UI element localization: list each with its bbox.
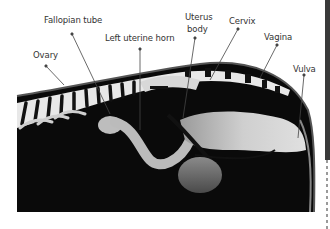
label-ovary: Ovary [33, 50, 58, 60]
label-uterus-body-line1: Uterus [185, 12, 213, 22]
page-edge-bar [325, 0, 330, 160]
label-uterus-body-line2: body [187, 24, 208, 34]
label-left-uterine-horn: Left uterine horn [105, 33, 174, 43]
page-edge-dashes [326, 160, 328, 229]
label-vagina: Vagina [264, 32, 292, 42]
label-cervix: Cervix [229, 16, 255, 26]
label-vulva: Vulva [293, 64, 316, 74]
label-fallopian-tube: Fallopian tube [44, 15, 102, 25]
